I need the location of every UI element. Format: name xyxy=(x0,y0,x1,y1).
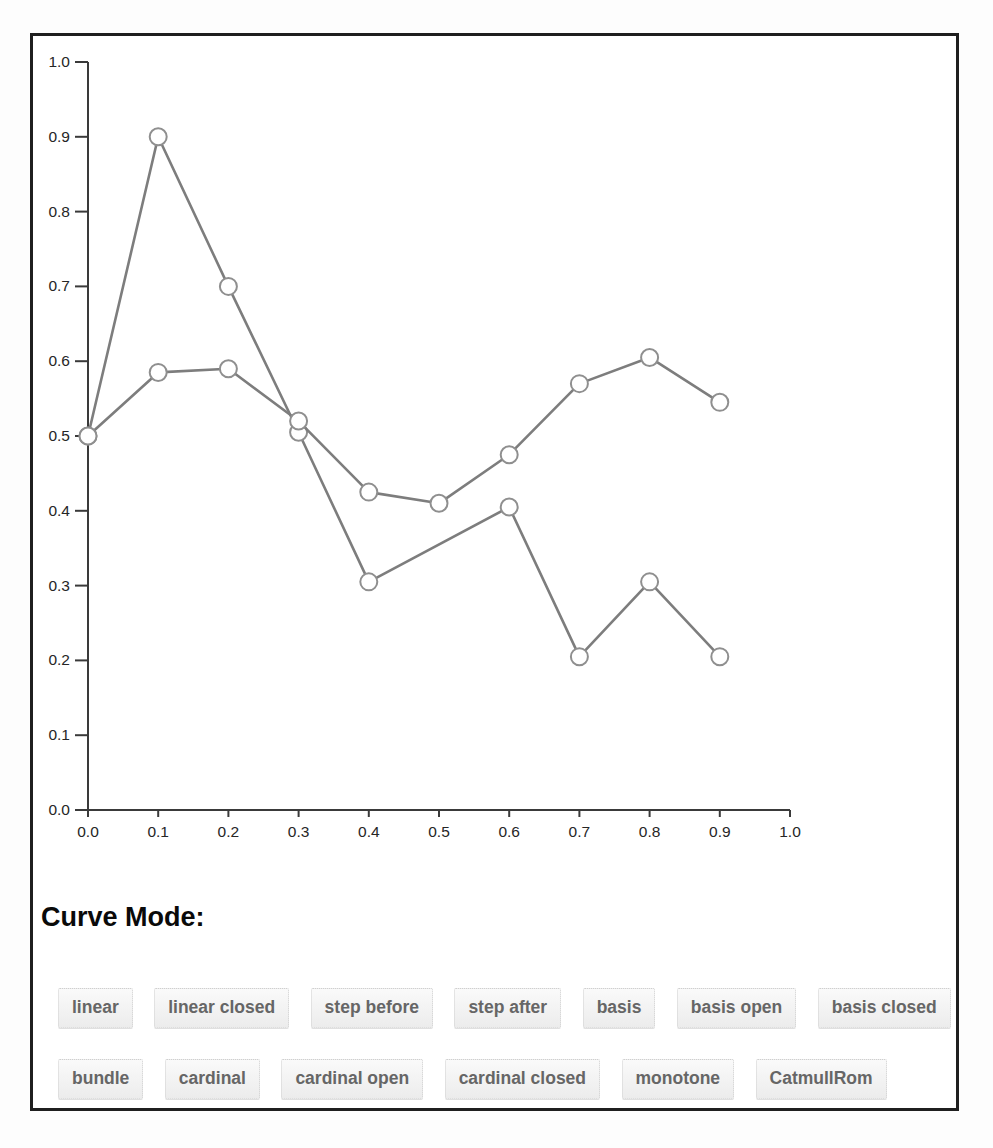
x-axis-tick-label: 1.0 xyxy=(779,823,801,840)
curve-button-basis-closed[interactable]: basis closed xyxy=(818,988,951,1028)
y-axis-tick-label: 0.9 xyxy=(48,128,70,145)
y-axis-tick-label: 0.8 xyxy=(48,203,70,220)
data-point-marker xyxy=(501,499,518,516)
data-point-marker xyxy=(220,360,237,377)
y-axis-tick-label: 1.0 xyxy=(48,53,70,70)
x-axis-tick-label: 0.4 xyxy=(358,823,380,840)
x-axis-tick-label: 0.9 xyxy=(709,823,731,840)
curve-button-linear[interactable]: linear xyxy=(58,988,133,1028)
curve-button-basis-open[interactable]: basis open xyxy=(677,988,796,1028)
data-point-marker xyxy=(150,128,167,145)
x-axis-tick-label: 0.1 xyxy=(147,823,169,840)
x-axis-tick-label: 0.3 xyxy=(288,823,310,840)
data-point-marker xyxy=(360,484,377,501)
app-frame: 0.00.10.20.30.40.50.60.70.80.91.00.00.10… xyxy=(30,33,959,1111)
data-point-marker xyxy=(431,495,448,512)
y-axis-tick-label: 0.7 xyxy=(48,277,70,294)
data-point-marker xyxy=(571,648,588,665)
curve-button-bundle[interactable]: bundle xyxy=(58,1059,143,1099)
x-axis-tick-label: 0.2 xyxy=(218,823,240,840)
y-axis-tick-label: 0.1 xyxy=(48,726,70,743)
data-point-marker xyxy=(220,278,237,295)
series-line-series-1 xyxy=(88,137,720,657)
data-point-marker xyxy=(360,573,377,590)
line-chart: 0.00.10.20.30.40.50.60.70.80.91.00.00.10… xyxy=(33,36,956,881)
curve-buttons-row-1: linear linear closed step before step af… xyxy=(58,988,956,1028)
curve-button-cardinal-closed[interactable]: cardinal closed xyxy=(445,1059,600,1099)
x-axis-tick-label: 0.6 xyxy=(498,823,520,840)
curve-button-basis[interactable]: basis xyxy=(583,988,656,1028)
y-axis-tick-label: 0.4 xyxy=(48,502,70,519)
x-axis-tick-label: 0.8 xyxy=(639,823,661,840)
data-point-marker xyxy=(641,573,658,590)
curve-button-linear-closed[interactable]: linear closed xyxy=(154,988,289,1028)
curve-button-cardinal-open[interactable]: cardinal open xyxy=(281,1059,423,1099)
curve-button-catmullrom[interactable]: CatmullRom xyxy=(756,1059,887,1099)
curve-button-step-after[interactable]: step after xyxy=(454,988,561,1028)
y-axis-tick-label: 0.0 xyxy=(48,801,70,818)
curve-button-monotone[interactable]: monotone xyxy=(622,1059,735,1099)
x-axis-tick-label: 0.7 xyxy=(569,823,591,840)
curve-button-step-before[interactable]: step before xyxy=(311,988,433,1028)
data-point-marker xyxy=(711,394,728,411)
data-point-marker xyxy=(711,648,728,665)
data-point-marker xyxy=(641,349,658,366)
y-axis-tick-label: 0.6 xyxy=(48,352,70,369)
y-axis-tick-label: 0.5 xyxy=(48,427,70,444)
data-point-marker xyxy=(290,413,307,430)
y-axis-tick-label: 0.2 xyxy=(48,651,70,668)
curve-buttons-row-2: bundle cardinal cardinal open cardinal c… xyxy=(58,1059,956,1099)
x-axis-tick-label: 0.0 xyxy=(77,823,99,840)
curve-button-cardinal[interactable]: cardinal xyxy=(165,1059,260,1099)
data-point-marker xyxy=(80,428,97,445)
data-point-marker xyxy=(150,364,167,381)
series-line-series-2 xyxy=(88,357,720,503)
x-axis-tick-label: 0.5 xyxy=(428,823,450,840)
data-point-marker xyxy=(571,375,588,392)
curve-mode-heading: Curve Mode: xyxy=(41,903,956,933)
data-point-marker xyxy=(501,446,518,463)
y-axis-tick-label: 0.3 xyxy=(48,577,70,594)
